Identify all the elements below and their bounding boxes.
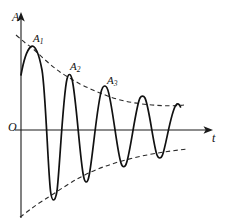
x-axis-label: t [212, 132, 215, 144]
peak-label-a1: A1 [33, 33, 43, 44]
axes-group [15, 12, 213, 218]
damped-oscillation-curve [21, 46, 181, 200]
peak-label-a3-base: A [107, 74, 114, 86]
peak-label-a2-base: A [70, 60, 77, 72]
peak-label-a3-sub: 3 [114, 79, 118, 88]
origin-label: O [8, 121, 17, 133]
peak-label-a3: A3 [107, 75, 117, 86]
damped-wave-group [21, 46, 181, 200]
peak-label-a1-base: A [33, 32, 40, 44]
envelope-group [16, 35, 187, 217]
y-axis-label: A [12, 11, 19, 23]
peak-label-a1-sub: 1 [40, 37, 44, 46]
lower-envelope-curve [20, 149, 187, 217]
peak-label-a2-sub: 2 [77, 65, 81, 74]
peak-label-a2: A2 [70, 61, 80, 72]
figure-canvas: A t O A1 A2 A3 [0, 0, 226, 224]
